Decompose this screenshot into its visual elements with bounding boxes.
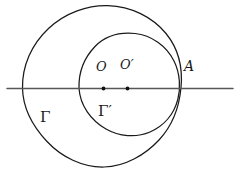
label-center-o-prime: O′	[120, 58, 134, 71]
label-circle-gamma: Γ	[40, 110, 50, 125]
circle-gamma-big	[22, 6, 181, 167]
geometry-figure: O O′ A Γ Γ′	[0, 0, 244, 179]
figure-canvas	[0, 0, 244, 179]
point-O-prime-dot	[126, 87, 130, 91]
label-point-a: A	[184, 59, 194, 73]
circle-gamma-small	[79, 33, 180, 135]
label-center-o: O	[96, 60, 107, 73]
label-circle-gamma-prime: Γ′	[98, 104, 112, 119]
point-O-dot	[102, 87, 106, 91]
